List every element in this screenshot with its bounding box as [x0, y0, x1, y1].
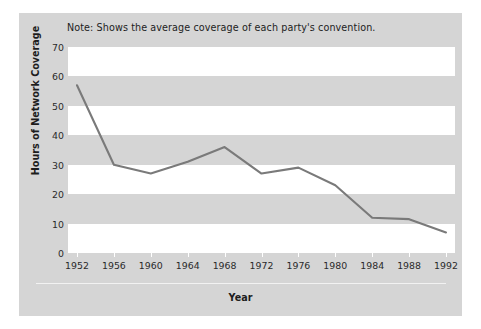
- x-tick-mark-1972: [262, 253, 263, 257]
- plot-area: [68, 47, 455, 253]
- x-tick-label-1988: 1988: [389, 260, 429, 271]
- chart-note: Note: Shows the average coverage of each…: [67, 22, 457, 33]
- x-tick-mark-1960: [151, 253, 152, 257]
- x-tick-label-1956: 1956: [94, 260, 134, 271]
- x-tick-label-1952: 1952: [57, 260, 97, 271]
- x-tick-mark-1976: [298, 253, 299, 257]
- x-tick-label-1992: 1992: [426, 260, 466, 271]
- x-tick-label-1960: 1960: [131, 260, 171, 271]
- x-tick-mark-1952: [77, 253, 78, 257]
- series-line-hours-of-network-coverage: [77, 85, 446, 232]
- x-axis-label: Year: [19, 292, 462, 303]
- y-tick-label-0: 0: [34, 248, 64, 259]
- x-tick-mark-1980: [335, 253, 336, 257]
- chart-figure: Note: Shows the average coverage of each…: [0, 0, 481, 329]
- x-tick-label-1968: 1968: [205, 260, 245, 271]
- series-line-chart: [68, 47, 455, 253]
- x-tick-label-1980: 1980: [315, 260, 355, 271]
- x-tick-label-1972: 1972: [242, 260, 282, 271]
- x-axis-separator: [36, 283, 446, 284]
- x-tick-mark-1956: [114, 253, 115, 257]
- x-tick-mark-1988: [409, 253, 410, 257]
- x-tick-label-1984: 1984: [352, 260, 392, 271]
- x-tick-mark-1964: [188, 253, 189, 257]
- x-axis-ticks: 1952195619601964196819721976198019841988…: [68, 253, 455, 277]
- x-tick-mark-1992: [446, 253, 447, 257]
- y-tick-label-10: 10: [34, 218, 64, 229]
- x-tick-mark-1984: [372, 253, 373, 257]
- x-tick-mark-1968: [225, 253, 226, 257]
- y-axis-label: Hours of Network Coverage: [30, 6, 41, 196]
- x-tick-label-1976: 1976: [278, 260, 318, 271]
- x-tick-label-1964: 1964: [168, 260, 208, 271]
